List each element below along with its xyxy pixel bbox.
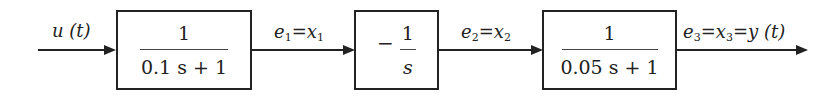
denominator: 0.1 s + 1: [141, 56, 227, 78]
fraction-bar: [140, 49, 228, 50]
arrowhead-icon: [796, 45, 808, 55]
transfer-function-1: 1 0.1 s + 1: [118, 12, 250, 88]
denominator: 0.05 s + 1: [560, 56, 658, 78]
block-integrator: − 1 s: [354, 10, 439, 90]
numerator: 1: [603, 22, 615, 44]
negative-sign: −: [377, 31, 394, 55]
fraction-bar: [400, 49, 416, 50]
transfer-function-3: 1 0.05 s + 1: [544, 12, 675, 88]
block-first-order-lag-2: 1 0.05 s + 1: [542, 10, 677, 90]
signal-line-e2: [439, 49, 535, 51]
output-line: [677, 49, 799, 51]
input-signal-label: u (t): [52, 20, 91, 41]
input-line: [38, 49, 108, 51]
signal-line-e1: [252, 49, 346, 51]
transfer-function-2: − 1 s: [356, 12, 437, 88]
signal-label-output: e3=x3=y (t): [683, 21, 785, 44]
denominator: s: [403, 56, 413, 78]
block-first-order-lag-1: 1 0.1 s + 1: [116, 10, 252, 90]
fraction-bar: [562, 49, 658, 50]
signal-label-e1-x1: e1=x1: [274, 21, 324, 44]
numerator: 1: [402, 22, 414, 44]
signal-label-e2-x2: e2=x2: [461, 21, 511, 44]
numerator: 1: [178, 22, 190, 44]
arrowhead-icon: [104, 45, 116, 55]
